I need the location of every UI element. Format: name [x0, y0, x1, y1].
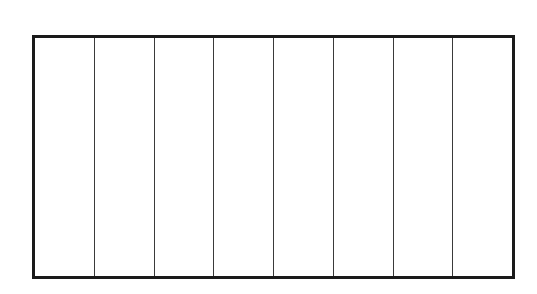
- divided-rectangle: [32, 35, 515, 279]
- rectangle-part-5: [274, 38, 334, 276]
- rectangle-part-2: [95, 38, 155, 276]
- rectangle-part-8: [453, 38, 512, 276]
- rectangle-part-4: [214, 38, 274, 276]
- rectangle-part-1: [35, 38, 95, 276]
- rectangle-part-3: [155, 38, 215, 276]
- rectangle-part-6: [334, 38, 394, 276]
- rectangle-part-7: [394, 38, 454, 276]
